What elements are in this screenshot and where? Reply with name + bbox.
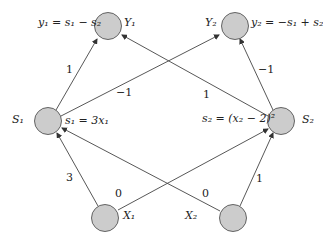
label-s1: S₁ xyxy=(12,114,24,125)
weight-s1-y1: 1 xyxy=(66,64,73,75)
weight-s1-y2: −1 xyxy=(116,87,132,98)
edge-x2-s1 xyxy=(62,128,220,211)
equation-y2: y₂ = −s₁ + s₂ xyxy=(251,17,323,28)
node-x1 xyxy=(92,205,119,232)
weight-x1-s1: 3 xyxy=(66,172,73,183)
label-x2: X₂ xyxy=(185,210,197,221)
label-y2: Y₂ xyxy=(205,17,217,28)
node-s1 xyxy=(35,108,62,135)
label-y1: Y₁ xyxy=(124,17,136,28)
label-s2: S₂ xyxy=(302,114,314,125)
equation-y1: y₁ = s₁ − s₂ xyxy=(38,17,101,28)
label-x1: X₁ xyxy=(123,210,135,221)
edge-x2-s2 xyxy=(240,133,273,206)
weight-x1-s2: 0 xyxy=(115,188,122,199)
equation-s2: s₂ = (x₂ − 2)² xyxy=(202,113,275,124)
weight-x2-s1: 0 xyxy=(202,188,209,199)
node-y2 xyxy=(222,13,249,40)
equation-s1: s₁ = 3x₁ xyxy=(65,115,109,126)
weight-x2-s2: 1 xyxy=(256,173,263,184)
weight-s2-y2: −1 xyxy=(258,64,274,75)
node-x2 xyxy=(220,205,247,232)
edge-s1-y1 xyxy=(56,39,97,110)
weight-s2-y1: 1 xyxy=(203,89,210,100)
